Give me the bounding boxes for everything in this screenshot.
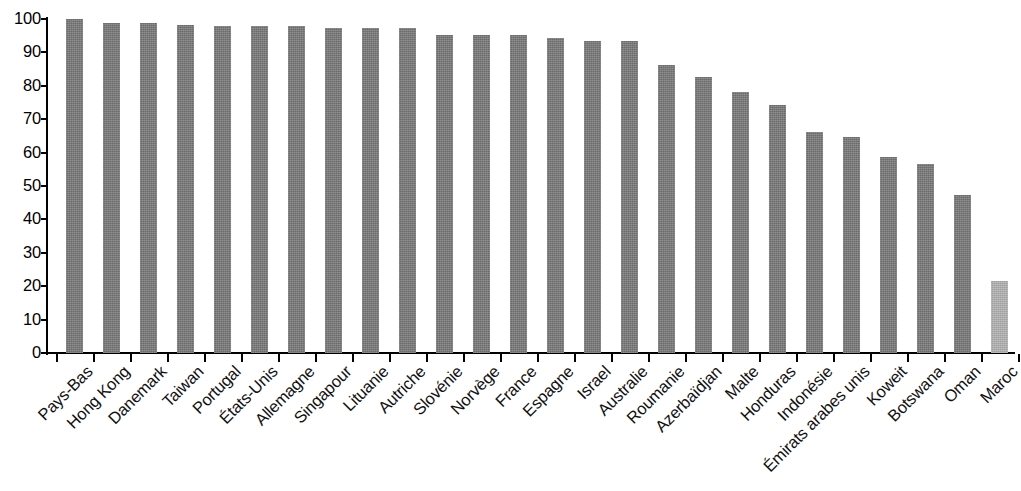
bar xyxy=(436,35,453,353)
x-axis-tick-label: Maroc xyxy=(976,362,1020,406)
x-axis-tick-mark xyxy=(500,354,502,362)
x-axis-tick-mark xyxy=(204,354,206,362)
x-axis-tick-mark xyxy=(796,354,798,362)
y-axis-tick-mark xyxy=(41,252,47,254)
bar xyxy=(214,26,231,353)
bar xyxy=(362,28,379,353)
bar xyxy=(251,26,268,353)
x-axis-category-labels: Pays-BasHong KongDanemarkTaiwanPortugalÉ… xyxy=(0,362,1021,491)
bar xyxy=(621,41,638,353)
bar xyxy=(140,23,157,353)
x-axis-tick-mark xyxy=(241,354,243,362)
x-axis-tick-mark xyxy=(574,354,576,362)
y-axis-tick-label: 100 xyxy=(14,10,41,26)
x-axis-tick-mark xyxy=(56,354,58,362)
x-axis-tick-mark xyxy=(833,354,835,362)
bar xyxy=(325,28,342,353)
y-axis-tick-label: 80 xyxy=(23,77,41,93)
x-axis-tick-mark xyxy=(648,354,650,362)
bar xyxy=(843,137,860,353)
bar xyxy=(917,164,934,353)
x-axis-tick-mark xyxy=(167,354,169,362)
y-axis-tick-mark xyxy=(41,319,47,321)
y-axis-tick-mark xyxy=(41,18,47,20)
bar xyxy=(288,26,305,353)
y-axis-tick-label: 40 xyxy=(23,210,41,226)
x-axis-tick-mark xyxy=(759,354,761,362)
x-axis-tick-mark xyxy=(870,354,872,362)
bar xyxy=(695,77,712,353)
y-axis-tick-mark xyxy=(41,185,47,187)
x-axis-tick-mark xyxy=(981,354,983,362)
x-axis-tick-mark xyxy=(93,354,95,362)
bar xyxy=(732,92,749,353)
plot-area xyxy=(47,19,1015,353)
x-axis-tick-mark xyxy=(352,354,354,362)
bar xyxy=(177,25,194,353)
x-axis-tick-mark xyxy=(463,354,465,362)
bar xyxy=(954,195,971,353)
x-axis-tick-mark xyxy=(278,354,280,362)
y-axis-tick-label: 30 xyxy=(23,244,41,260)
y-axis-tick-label: 10 xyxy=(23,311,41,327)
x-axis-tick-mark xyxy=(130,354,132,362)
y-axis-tick-label: 90 xyxy=(23,43,41,59)
y-axis-tick-mark xyxy=(41,51,47,53)
bar xyxy=(510,35,527,353)
y-axis-tick-label: 60 xyxy=(23,144,41,160)
x-axis-tick-mark xyxy=(907,354,909,362)
bar xyxy=(880,157,897,353)
bar xyxy=(399,28,416,353)
bar xyxy=(103,23,120,353)
bar xyxy=(547,38,564,353)
x-axis-tick-mark xyxy=(611,354,613,362)
y-axis-tick-mark xyxy=(41,152,47,154)
x-axis-tick-mark xyxy=(944,354,946,362)
y-axis-tick-label: 20 xyxy=(23,277,41,293)
y-axis-tick-mark xyxy=(41,118,47,120)
x-axis-tick-label: Oman xyxy=(940,362,984,406)
x-axis-tick-mark xyxy=(426,354,428,362)
bar xyxy=(769,105,786,353)
x-axis-tick-mark xyxy=(685,354,687,362)
x-axis-tick-mark xyxy=(1018,354,1020,362)
y-axis-tick-mark xyxy=(41,285,47,287)
bar xyxy=(806,132,823,353)
y-axis-tick-mark xyxy=(41,85,47,87)
x-axis-tick-mark xyxy=(537,354,539,362)
y-axis-tick-label: 0 xyxy=(32,344,41,360)
x-axis-tick-mark xyxy=(722,354,724,362)
x-axis-tick-mark xyxy=(315,354,317,362)
y-axis-tick-label: 50 xyxy=(23,177,41,193)
bar-chart: 0102030405060708090100 Pays-BasHong Kong… xyxy=(0,0,1021,491)
bar xyxy=(66,19,83,353)
y-axis-tick-mark xyxy=(41,352,47,354)
bar xyxy=(658,65,675,353)
y-axis-tick-label: 70 xyxy=(23,110,41,126)
bar xyxy=(584,41,601,353)
bar xyxy=(991,281,1008,353)
y-axis-tick-mark xyxy=(41,218,47,220)
x-axis-tick-mark xyxy=(389,354,391,362)
bar xyxy=(473,35,490,353)
